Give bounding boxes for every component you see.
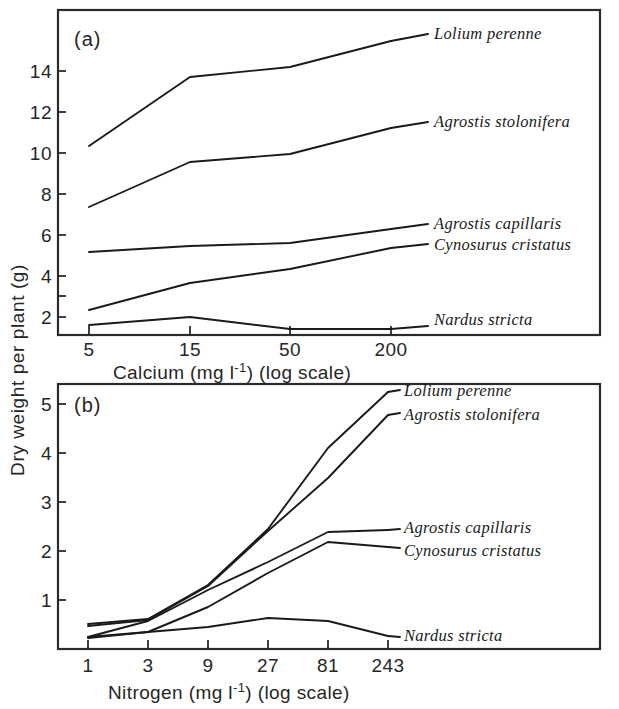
panel-b-x-axis-title: Nitrogen (mg l-1) (log scale) <box>108 680 350 703</box>
panel-b-x-tick-labels: 1 3 9 27 81 243 <box>82 655 404 676</box>
panel-a-xtick-200: 200 <box>374 339 407 360</box>
panel-b-xtick-27: 27 <box>257 655 279 676</box>
panel-b-series <box>88 392 388 638</box>
panel-b-xtick-9: 9 <box>202 655 213 676</box>
panel-b-ytick-2: 2 <box>41 541 52 562</box>
panel-a-xtick-5: 5 <box>83 339 94 360</box>
panel-b-x-ticks <box>88 640 388 649</box>
panel-a-label-agrostis-stolonifera: Agrostis stolonifera <box>433 112 570 131</box>
panel-b-line-agrostis-stolonifera <box>88 415 388 626</box>
panel-a-label-nardus-stricta: Nardus stricta <box>433 310 532 329</box>
panel-b-leader-cynosurus <box>388 547 400 548</box>
panel-b-label-agrostis-stolonifera: Agrostis stolonifera <box>403 405 540 424</box>
panel-a-ytick-10: 10 <box>30 143 52 164</box>
panel-b-y-tick-labels: 5 4 3 2 1 <box>41 394 52 611</box>
panel-b-leader-agrostis-capillaris <box>388 529 400 530</box>
panel-a-line-agrostis-stolonifera <box>89 128 391 207</box>
panel-b-y-ticks <box>58 404 66 600</box>
panel-a-label-lolium-perenne: Lolium perenne <box>433 24 542 43</box>
panel-b-ytick-1: 1 <box>41 590 52 611</box>
panel-a-leader-agrostis-capillaris <box>391 224 428 229</box>
panel-b-label-nardus-stricta: Nardus stricta <box>403 626 502 645</box>
panel-a-leader-cynosurus <box>391 244 428 248</box>
panel-a-y-tick-labels: 14 12 10 8 6 4 2 <box>30 61 52 328</box>
panel-b-ytick-4: 4 <box>41 443 52 464</box>
panel-b-leader-nardus <box>388 636 400 637</box>
panel-b-xtick-1: 1 <box>82 655 93 676</box>
panel-b-label-agrostis-capillaris: Agrostis capillaris <box>403 518 531 537</box>
panel-a-leader-lolium <box>391 34 428 41</box>
panel-a-line-agrostis-capillaris <box>89 229 391 252</box>
panel-a-ytick-12: 12 <box>30 102 52 123</box>
y-axis-title: Dry weight per plant (g) <box>7 264 28 476</box>
panel-a-tag: (a) <box>74 28 101 50</box>
panel-b-xtick-243: 243 <box>371 655 404 676</box>
panel-b-label-cynosurus-cristatus: Cynosurus cristatus <box>404 541 541 560</box>
panel-b-xtick-3: 3 <box>142 655 153 676</box>
two-panel-line-chart: Dry weight per plant (g) (a) 14 12 10 8 <box>0 0 619 709</box>
panel-a-label-agrostis-capillaris: Agrostis capillaris <box>433 214 561 233</box>
panel-b-leaders <box>388 390 400 637</box>
panel-b-leader-agrostis-stolonifera <box>388 413 400 415</box>
panel-a-xtick-15: 15 <box>179 339 201 360</box>
panel-b-ytick-5: 5 <box>41 394 52 415</box>
panel-a-leaders <box>391 34 428 329</box>
panel-a-x-axis-title-tail: ) (log scale) <box>247 362 351 383</box>
panel-a-series <box>89 41 391 329</box>
panel-a: (a) 14 12 10 8 6 4 2 <box>30 10 600 383</box>
panel-b-label-lolium-perenne: Lolium perenne <box>403 381 512 400</box>
panel-b-ytick-3: 3 <box>41 492 52 513</box>
panel-a-ytick-6: 6 <box>41 225 52 246</box>
panel-a-label-cynosurus-cristatus: Cynosurus cristatus <box>434 235 571 254</box>
panel-a-leader-nardus <box>391 326 428 329</box>
panel-a-ytick-4: 4 <box>41 266 52 287</box>
panel-b-xtick-81: 81 <box>317 655 339 676</box>
panel-b-series-labels: Lolium perenne Agrostis stolonifera Agro… <box>403 381 541 645</box>
panel-a-x-ticks <box>89 326 391 335</box>
figure-container: Dry weight per plant (g) (a) 14 12 10 8 <box>0 0 619 709</box>
panel-a-x-axis-title-main: Calcium (mg l <box>113 362 234 383</box>
panel-b-x-axis-title-sup: -1 <box>233 680 245 695</box>
panel-b-leader-lolium <box>388 390 400 392</box>
panel-a-y-ticks <box>58 71 66 317</box>
panel-a-x-tick-labels: 5 15 50 200 <box>83 339 407 360</box>
panel-a-ytick-2: 2 <box>41 307 52 328</box>
panel-a-leader-agrostis-stolonifera <box>391 122 428 128</box>
panel-a-ytick-8: 8 <box>41 184 52 205</box>
panel-a-line-lolium-perenne <box>89 41 391 146</box>
panel-b-tag: (b) <box>74 394 101 416</box>
panel-a-xtick-50: 50 <box>279 339 301 360</box>
panel-a-line-cynosurus-cristatus <box>89 248 391 310</box>
panel-b-x-axis-title-main: Nitrogen (mg l <box>108 682 233 703</box>
panel-a-series-labels: Lolium perenne Agrostis stolonifera Agro… <box>433 24 571 329</box>
panel-a-x-axis-title: Calcium (mg l-1) (log scale) <box>113 360 351 383</box>
panel-b: (b) 5 4 3 2 1 <box>41 381 600 703</box>
panel-a-ytick-14: 14 <box>30 61 52 82</box>
panel-b-x-axis-title-tail: ) (log scale) <box>245 682 349 703</box>
panel-a-line-nardus-stricta <box>89 317 391 329</box>
panel-a-frame <box>58 10 600 335</box>
panel-a-x-axis-title-sup: -1 <box>234 360 246 375</box>
